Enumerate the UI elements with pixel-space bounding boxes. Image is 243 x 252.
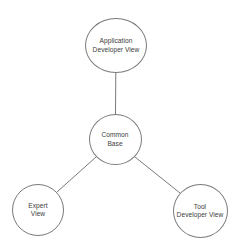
node-common-base[interactable]: Common Base xyxy=(89,114,142,165)
node-expert-view-label: Expert View xyxy=(28,202,47,219)
node-common-base-label-line2: Base xyxy=(107,140,122,147)
edge-common-base-to-tool-developer-view xyxy=(135,157,180,193)
node-expert-view[interactable]: Expert View xyxy=(12,184,64,236)
node-tool-developer-view-label-line2: Developer View xyxy=(177,211,224,218)
node-tool-developer-view[interactable]: Tool Developer View xyxy=(173,184,228,238)
node-application-developer-view-label-line2: Developer View xyxy=(93,46,140,53)
node-application-developer-view[interactable]: Application Developer View xyxy=(85,18,147,73)
diagram-canvas: Application Developer View Common Base E… xyxy=(0,0,243,252)
node-expert-view-label-line1: Expert xyxy=(28,202,47,209)
node-application-developer-view-label-line1: Application xyxy=(100,37,133,44)
node-tool-developer-view-label: Tool Developer View xyxy=(177,203,224,220)
edge-common-base-to-expert-view xyxy=(57,157,96,192)
node-tool-developer-view-label-line1: Tool xyxy=(194,203,206,210)
node-common-base-label: Common Base xyxy=(101,131,128,148)
node-common-base-label-line1: Common xyxy=(101,131,128,138)
node-application-developer-view-label: Application Developer View xyxy=(93,37,140,54)
node-expert-view-label-line2: View xyxy=(31,210,45,217)
